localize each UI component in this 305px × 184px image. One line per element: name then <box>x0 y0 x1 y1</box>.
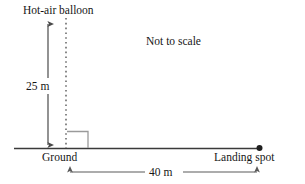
hot-air-balloon-label: Hot-air balloon <box>22 5 95 17</box>
not-to-scale-note: Not to scale <box>145 36 202 48</box>
right-angle-marker <box>67 132 88 149</box>
height-measure-label: 25 m <box>24 80 51 94</box>
landing-spot-label: Landing spot <box>213 152 275 164</box>
distance-measure-label: 40 m <box>146 166 175 180</box>
balloon-diagram: Hot-air balloon Not to scale 25 m Ground… <box>0 0 305 184</box>
ground-label: Ground <box>41 152 78 164</box>
